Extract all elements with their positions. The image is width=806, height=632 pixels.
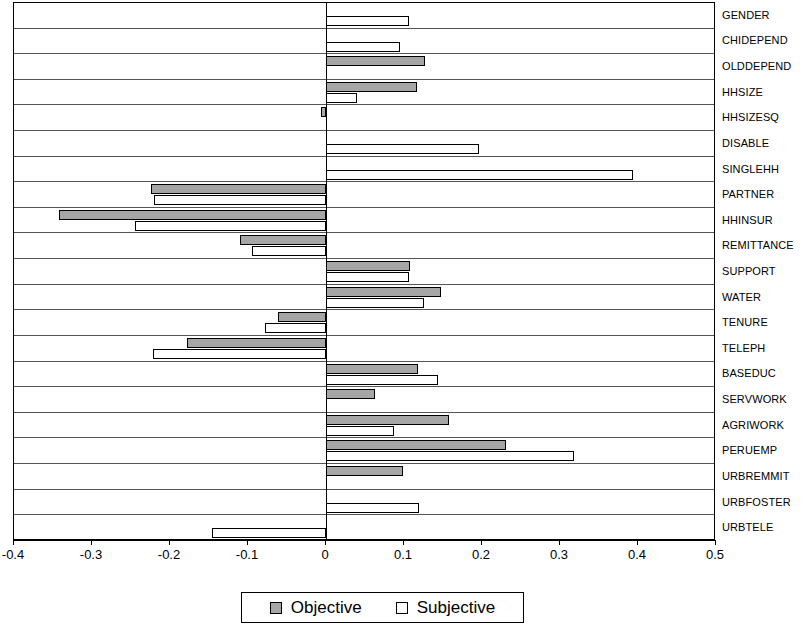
x-tick — [403, 540, 404, 545]
x-tick — [91, 540, 92, 545]
bar-subjective-support — [326, 272, 409, 282]
category-label-baseduc: BASEDUC — [722, 368, 776, 379]
bar-subjective-hhinsur — [135, 221, 326, 231]
bar-objective-peruemp — [326, 440, 506, 450]
category-label-singlehh: SINGLEHH — [722, 164, 779, 175]
chart-legend: Objective Subjective — [241, 592, 524, 623]
category-label-hhsize: HHSIZE — [722, 87, 763, 98]
bar-subjective-water — [326, 298, 424, 308]
bar-subjective-remittance — [252, 246, 326, 256]
x-tick — [13, 540, 14, 545]
category-label-servwork: SERVWORK — [722, 394, 787, 405]
bar-objective-tenure — [278, 312, 326, 322]
x-tick — [637, 540, 638, 545]
bar-row — [14, 182, 714, 208]
bar-subjective-urbtele — [212, 528, 326, 538]
x-tick-label: -0.1 — [236, 548, 258, 562]
bar-row — [14, 362, 714, 388]
bar-row — [14, 105, 714, 131]
category-label-urbtele: URBTELE — [722, 522, 773, 533]
category-label-olddepend: OLDDEPEND — [722, 61, 791, 72]
bar-objective-urbremmit — [326, 466, 403, 476]
bar-objective-olddepend — [326, 56, 425, 66]
category-label-teleph: TELEPH — [722, 343, 765, 354]
x-tick-label: -0.4 — [2, 548, 24, 562]
x-tick — [559, 540, 560, 545]
x-tick-label: 0.3 — [550, 548, 568, 562]
x-tick-label: -0.2 — [158, 548, 180, 562]
x-tick-label: 0.4 — [628, 548, 646, 562]
x-tick-label: 0 — [321, 548, 328, 562]
bar-subjective-baseduc — [326, 375, 438, 385]
category-label-urbfoster: URBFOSTER — [722, 497, 791, 508]
x-tick — [325, 540, 326, 545]
bar-objective-teleph — [187, 338, 326, 348]
bar-objective-remittance — [240, 235, 326, 245]
bar-row — [14, 29, 714, 55]
bar-row — [14, 259, 714, 285]
zero-axis-line — [326, 3, 327, 539]
bar-row — [14, 336, 714, 362]
x-axis: -0.4-0.3-0.2-0.100.10.20.30.40.5 — [13, 540, 715, 541]
category-label-gender: GENDER — [722, 10, 770, 21]
category-label-urbremmit: URBREMMIT — [722, 471, 790, 482]
bar-subjective-tenure — [265, 323, 326, 333]
category-label-hhsizesq: HHSIZESQ — [722, 112, 779, 123]
legend-label-subjective: Subjective — [417, 599, 495, 617]
bar-row — [14, 490, 714, 516]
bar-row — [14, 438, 714, 464]
category-axis-labels: GENDERCHIDEPENDOLDDEPENDHHSIZEHHSIZESQDI… — [722, 2, 806, 540]
bar-objective-servwork — [326, 389, 375, 399]
x-tick — [715, 540, 716, 545]
category-label-agriwork: AGRIWORK — [722, 420, 784, 431]
legend-label-objective: Objective — [291, 599, 362, 617]
bar-subjective-hhsize — [326, 93, 357, 103]
bar-row — [14, 3, 714, 29]
legend-item-objective: Objective — [270, 599, 362, 617]
bar-row — [14, 131, 714, 157]
x-tick — [169, 540, 170, 545]
bar-objective-agriwork — [326, 415, 449, 425]
bar-subjective-teleph — [153, 349, 326, 359]
bar-chart: GENDERCHIDEPENDOLDDEPENDHHSIZEHHSIZESQDI… — [0, 0, 806, 632]
bar-objective-partner — [151, 184, 327, 194]
bar-row — [14, 80, 714, 106]
bar-row — [14, 387, 714, 413]
category-label-peruemp: PERUEMP — [722, 445, 777, 456]
bar-rows — [14, 3, 714, 539]
bar-row — [14, 157, 714, 183]
category-label-water: WATER — [722, 292, 761, 303]
legend-item-subjective: Subjective — [396, 599, 495, 617]
x-tick-label: -0.3 — [80, 548, 102, 562]
bar-row — [14, 515, 714, 541]
x-tick-label: 0.2 — [472, 548, 490, 562]
plot-area — [13, 2, 715, 540]
bar-subjective-disable — [326, 144, 479, 154]
bar-subjective-urbfoster — [326, 503, 419, 513]
bar-row — [14, 310, 714, 336]
bar-objective-hhsize — [326, 82, 417, 92]
bar-row — [14, 285, 714, 311]
category-label-chidepend: CHIDEPEND — [722, 35, 788, 46]
bar-row — [14, 413, 714, 439]
bar-subjective-agriwork — [326, 426, 394, 436]
category-label-disable: DISABLE — [722, 138, 769, 149]
category-label-remittance: REMITTANCE — [722, 240, 794, 251]
x-tick-label: 0.5 — [706, 548, 724, 562]
category-label-tenure: TENURE — [722, 317, 768, 328]
legend-swatch-subjective-icon — [396, 602, 408, 614]
x-tick-label: 0.1 — [394, 548, 412, 562]
bar-subjective-chidepend — [326, 42, 400, 52]
legend-swatch-objective-icon — [270, 602, 282, 614]
bar-objective-water — [326, 287, 441, 297]
bar-subjective-peruemp — [326, 451, 574, 461]
category-label-hhinsur: HHINSUR — [722, 215, 773, 226]
bar-row — [14, 233, 714, 259]
category-label-support: SUPPORT — [722, 266, 776, 277]
bar-objective-baseduc — [326, 364, 418, 374]
category-label-partner: PARTNER — [722, 189, 774, 200]
bar-row — [14, 208, 714, 234]
x-tick — [481, 540, 482, 545]
bar-row — [14, 54, 714, 80]
bar-objective-support — [326, 261, 410, 271]
